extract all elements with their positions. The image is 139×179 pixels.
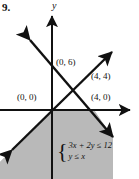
point-label-0-6: (0, 6) xyxy=(56,58,76,67)
figure-panel: 9. y (0, 6) (4, 4) (0, 0) (4, 0) { 3x + … xyxy=(0,0,139,179)
inequality-1: 3x + 2y ≤ 12 xyxy=(69,140,112,150)
problem-number: 9. xyxy=(2,2,10,13)
inequality-2: y ≤ x xyxy=(69,151,112,161)
y-axis-label: y xyxy=(52,1,56,11)
point-label-4-0: (4, 0) xyxy=(91,93,111,102)
point-label-4-4: (4, 4) xyxy=(91,72,111,81)
point-label-0-0: (0, 0) xyxy=(17,93,37,102)
system-of-inequalities: { 3x + 2y ≤ 12 y ≤ x xyxy=(57,140,112,161)
brace-glyph: { xyxy=(57,142,68,160)
